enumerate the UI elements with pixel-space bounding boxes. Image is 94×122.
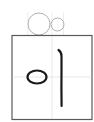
consonant-guide-circle [28, 13, 50, 35]
practice-card-graphic [0, 0, 94, 122]
hangul-practice-card: 이 [0, 0, 94, 122]
vowel-guide-circle [51, 18, 64, 31]
writing-box [12, 36, 92, 120]
syllable-guide [28, 12, 64, 35]
